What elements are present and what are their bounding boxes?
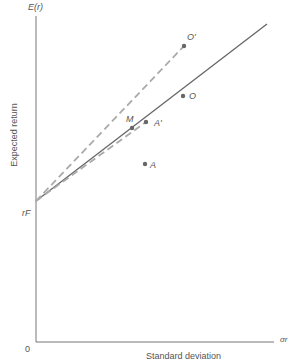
point-o-prime: [182, 44, 186, 48]
x-axis-symbol: σr: [280, 335, 288, 344]
point-a-prime: [144, 120, 148, 124]
point-a: [143, 162, 147, 166]
label-a: A: [150, 160, 156, 170]
label-a-prime: A': [154, 118, 162, 128]
capital-market-line: [36, 24, 267, 201]
x-axis-title: Standard deviation: [146, 351, 221, 361]
point-m: [130, 126, 134, 130]
chart-canvas: [0, 0, 294, 363]
y-axis-title: Expected return: [9, 95, 19, 175]
rf-label: rF: [22, 208, 31, 218]
y-axis-symbol: E(r): [28, 2, 43, 12]
point-o: [181, 94, 185, 98]
label-o-prime: O': [187, 32, 196, 42]
origin-label: 0: [25, 344, 30, 354]
label-m: M: [126, 114, 134, 124]
label-o: O: [189, 91, 196, 101]
